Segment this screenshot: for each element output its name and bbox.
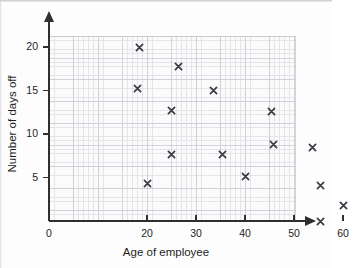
plot-border-top [49, 36, 296, 37]
x-tick-label: 30 [184, 227, 208, 239]
data-point-marker [218, 150, 227, 159]
data-point-marker [167, 150, 176, 159]
data-point-marker [316, 217, 325, 226]
y-axis-line [48, 20, 50, 221]
data-point-marker [241, 172, 250, 181]
data-point-marker [135, 43, 144, 52]
y-tick-label: 20 [18, 40, 38, 52]
plot-border-right [295, 36, 296, 221]
x-tick-mark [244, 215, 245, 221]
x-tick-label: 0 [37, 227, 61, 239]
figure-left-edge [0, 0, 2, 268]
x-tick-label: 50 [282, 227, 306, 239]
data-point-marker [143, 179, 152, 188]
plot-area [49, 36, 296, 221]
x-axis-arrow-icon [305, 216, 316, 226]
y-tick-mark [43, 177, 49, 178]
data-point-marker [167, 106, 176, 115]
x-axis-title: Age of employee [0, 246, 332, 258]
x-tick-mark [195, 215, 196, 221]
data-point-marker [339, 201, 348, 210]
major-gridlines [49, 36, 296, 221]
x-tick-label: 60 [331, 227, 354, 239]
y-tick-label: 10 [18, 127, 38, 139]
data-point-marker [267, 107, 276, 116]
data-point-marker [133, 84, 142, 93]
y-tick-label: 5 [18, 171, 38, 183]
y-axis-arrow-icon [44, 11, 54, 22]
data-point-marker [269, 140, 278, 149]
figure-top-edge [0, 0, 332, 2]
data-point-marker [316, 181, 325, 190]
data-point-marker [209, 86, 218, 95]
x-tick-mark [293, 215, 294, 221]
y-tick-mark [43, 46, 49, 47]
y-axis-title: Number of days off [6, 44, 18, 204]
data-point-marker [308, 143, 317, 152]
x-tick-mark [342, 215, 343, 221]
x-tick-label: 40 [233, 227, 257, 239]
y-tick-label: 15 [18, 84, 38, 96]
data-point-marker [174, 62, 183, 71]
y-tick-mark [43, 90, 49, 91]
x-tick-mark [146, 215, 147, 221]
y-tick-mark [43, 133, 49, 134]
x-tick-label: 20 [135, 227, 159, 239]
x-axis-line [49, 220, 308, 222]
